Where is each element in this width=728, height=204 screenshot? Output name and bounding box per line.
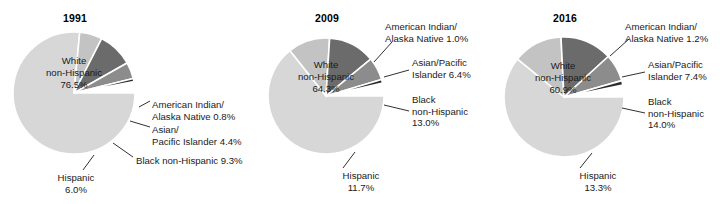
label-line: Black [648, 96, 704, 108]
label-line: Alaska Native 1.2% [625, 33, 708, 45]
label-line: 60.9% [513, 84, 613, 96]
slice-label-white-non-hispanic: Whitenon-Hispanic60.9% [513, 60, 613, 96]
label-line: 13.3% [570, 182, 626, 194]
label-line: Asian/Pacific [648, 59, 707, 71]
label-line: American Indian/ [625, 21, 708, 33]
pie-chart-figure: 1991Whitenon-Hispanic76.5%American India… [0, 0, 728, 204]
slice-label-black-non-hispanic: Blacknon-Hispanic14.0% [648, 96, 704, 131]
chart-panel-2016: 2016Whitenon-Hispanic60.9%American India… [0, 0, 728, 204]
slice-label-hispanic: Hispanic13.3% [570, 170, 626, 193]
leader-line [580, 153, 592, 168]
label-line: non-Hispanic [648, 108, 704, 120]
slice-label-asian-pacific-islander: Asian/PacificIslander 7.4% [648, 59, 707, 82]
label-line: Hispanic [570, 170, 626, 182]
label-line: Islander 7.4% [648, 71, 707, 83]
leader-line [622, 108, 645, 113]
slice-label-american-indian-alaska-native: American Indian/Alaska Native 1.2% [625, 21, 708, 44]
label-line: 14.0% [648, 119, 704, 131]
label-line: non-Hispanic [513, 72, 613, 84]
label-line: White [513, 60, 613, 72]
leader-line [622, 72, 645, 77]
